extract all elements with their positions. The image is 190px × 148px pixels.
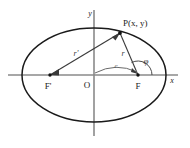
- x-axis-label: x: [169, 76, 174, 85]
- focus-left-dot: [48, 73, 51, 76]
- focus-right-label: F: [135, 81, 140, 91]
- radius-r-prime-label: r': [74, 49, 79, 58]
- origin-label: O: [84, 80, 91, 90]
- focal-radius-r-prime-line: [50, 33, 120, 75]
- point-p-label: P(x, y): [123, 18, 148, 28]
- angle-phi-label: φ: [144, 56, 149, 66]
- arrowhead-c-arc: [131, 68, 138, 74]
- radius-r-label: r: [121, 49, 125, 58]
- ellipse-diagram-canvas: y x P(x, y) O F F' r' r c φ: [0, 0, 190, 148]
- focus-left-label: F': [45, 81, 52, 91]
- focus-right-dot: [136, 73, 139, 76]
- y-axis-label: y: [87, 9, 92, 18]
- point-p-dot: [118, 31, 122, 35]
- ellipse-diagram-figure: y x P(x, y) O F F' r' r c φ: [0, 0, 190, 148]
- linear-eccentricity-label: c: [114, 62, 118, 70]
